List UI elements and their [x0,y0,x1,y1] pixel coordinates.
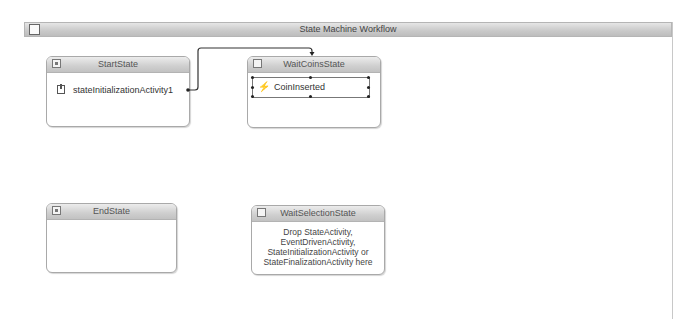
end-state-title: EndState [47,206,176,216]
wait-coins-state[interactable]: WaitCoinsState ⚡ CoinInserted [247,56,381,128]
resize-handle[interactable] [367,86,370,89]
event-driven-activity[interactable]: CoinInserted [274,82,325,92]
workflow-header[interactable]: State Machine Workflow [24,22,672,37]
end-state[interactable]: EndState [46,203,177,273]
wait-selection-state-header[interactable]: WaitSelectionState [252,206,384,222]
resize-handle[interactable] [251,86,254,89]
start-state-header[interactable]: StartState [47,57,189,73]
workflow-title: State Machine Workflow [25,24,671,34]
drop-hint-line: Drop StateActivity, [252,227,384,237]
start-state[interactable]: StartState stateInitializationActivity1 [46,56,190,127]
event-driven-icon: ⚡ [258,81,270,92]
resize-handle[interactable] [309,95,312,98]
end-state-header[interactable]: EndState [47,204,176,220]
state-initialization-icon [57,85,65,94]
drop-hint-line: EventDrivenActivity, [252,237,384,247]
drop-hint: Drop StateActivity, EventDrivenActivity,… [252,227,384,267]
wait-coins-state-title: WaitCoinsState [248,59,380,69]
wait-coins-state-header[interactable]: WaitCoinsState [248,57,380,73]
resize-handle[interactable] [309,76,312,79]
resize-handle[interactable] [367,95,370,98]
start-state-title: StartState [47,59,189,69]
state-initialization-activity[interactable]: stateInitializationActivity1 [73,85,173,95]
drop-hint-line: StateFinalizationActivity here [252,257,384,267]
drop-hint-line: StateInitializationActivity or [252,247,384,257]
resize-handle[interactable] [251,76,254,79]
wait-selection-state[interactable]: WaitSelectionState Drop StateActivity, E… [251,205,385,275]
wait-selection-state-title: WaitSelectionState [252,208,384,218]
resize-handle[interactable] [367,76,370,79]
resize-handle[interactable] [251,95,254,98]
